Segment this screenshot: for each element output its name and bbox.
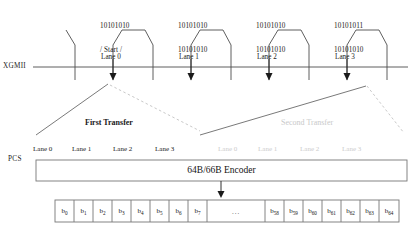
bit-cell-b64-index: 64 [388,210,393,216]
second-transfer-projection [200,86,404,135]
bit-cell-b3-index: 3 [122,210,125,216]
pcs-lane-label-first-2: Lane 2 [113,145,132,153]
second-transfer-line-right [367,86,404,133]
bit-cell-b7-index: 7 [198,210,201,216]
byte-label-2-line1: 10101010 [256,22,286,30]
first-transfer-projection [36,84,200,135]
bit-cell-b1-index: 1 [84,210,87,216]
bit-cell-b2-index: 2 [103,210,106,216]
byte-label-3: 10101011 10101010 [334,5,364,71]
pcs-lane-label-second-2: Lane 2 [300,145,319,153]
bit-cell-b5-index: 5 [160,210,163,216]
pcs-lane-label-second-1: Lane 1 [258,145,277,153]
bit-cell-b6-index: 6 [179,210,182,216]
byte-label-3-line1: 10101011 [334,22,364,30]
bit-cell-b58-index: 58 [274,210,279,216]
bit-cell-b2: b2 [93,207,112,215]
bit-cell-b0: b0 [55,207,74,215]
second-transfer-label: Second Transfer [281,118,333,127]
pcs-lane-label-first-3: Lane 3 [155,145,174,153]
waveform-edge-0 [66,30,75,80]
bit-cell-b62: b62 [341,207,360,215]
first-transfer-label: First Transfer [85,118,133,127]
bit-cell-b59: b59 [284,207,303,215]
bit-cell-b58: b58 [265,207,284,215]
encoder-label: 64B/66B Encoder [36,165,407,176]
pcs-lane-label-first-0: Lane 0 [33,145,52,153]
byte-label-1-line1: 10101010 [178,22,208,30]
bit-cell-b60: b60 [303,207,322,215]
bit-cell-b63-index: 63 [369,210,374,216]
bit-cell-b4-index: 4 [141,210,144,216]
xgmii-lane-label-3: Lane 3 [335,53,355,61]
bit-cell-b7: b7 [188,207,207,215]
bit-cell-b0-index: 0 [65,210,68,216]
xgmii-lane-label-1: Lane 1 [179,53,199,61]
pcs-lane-label-second-3: Lane 3 [342,145,361,153]
diagram-canvas: 10101010 / Start / 10101010 10101010 101… [0,0,414,230]
byte-label-1: 10101010 10101010 [178,5,208,71]
bit-cell-b59-index: 59 [293,210,298,216]
second-transfer-line-left [200,86,366,135]
xgmii-row-label: XGMII [3,62,26,70]
bit-cell-b4: b4 [131,207,150,215]
byte-label-0: 10101010 / Start / [100,5,130,71]
bit-cell-b60-index: 60 [312,210,317,216]
byte-label-2: 10101010 10101010 [256,5,286,71]
pcs-lane-label-second-0: Lane 0 [218,145,237,153]
bit-cell-b61: b61 [322,207,341,215]
bit-cell-b63: b63 [360,207,379,215]
xgmii-lane-label-0: Lane 0 [101,53,121,61]
bit-cell-b64: b64 [379,207,399,215]
xgmii-lane-label-2: Lane 2 [257,53,277,61]
encoder-output-arrow [218,181,225,198]
pcs-row-label: PCS [8,155,22,163]
bit-cell-b3: b3 [112,207,131,215]
first-transfer-line-left [36,84,108,135]
byte-label-0-line1: 10101010 [100,22,130,30]
xgmii-lane-arrows [110,59,351,81]
bit-cell-b62-index: 62 [350,210,355,216]
bit-cell-b5: b5 [150,207,169,215]
pcs-lane-label-first-1: Lane 1 [72,145,91,153]
bit-cell-b61-index: 61 [331,210,336,216]
bit-row-ellipsis: ... [207,208,265,216]
bit-cell-b1: b1 [74,207,93,215]
bit-cell-b6: b6 [169,207,188,215]
